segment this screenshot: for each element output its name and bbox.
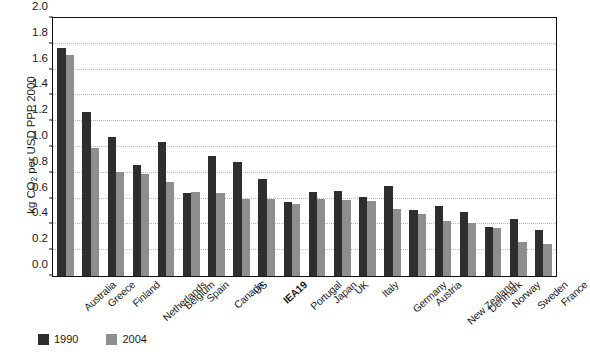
y-tick-label: 1.4 (32, 77, 48, 89)
legend: 19902004 (38, 333, 147, 345)
bar (158, 142, 166, 276)
bar (292, 204, 300, 276)
bar (535, 230, 543, 276)
bar (116, 172, 124, 276)
legend-swatch (106, 334, 117, 345)
bar (510, 219, 518, 276)
x-tick-label: Finland (131, 279, 163, 309)
bar (393, 209, 401, 276)
bar-group (309, 18, 326, 276)
plot-area: 0.00.20.40.60.81.01.21.41.61.82.0 (52, 17, 557, 277)
y-tick-label: 1.2 (32, 103, 48, 115)
legend-label: 1990 (54, 333, 78, 345)
bar-group (535, 18, 552, 276)
bar (191, 192, 199, 276)
bar (435, 206, 443, 276)
bar (284, 202, 292, 276)
bar-group (384, 18, 401, 276)
y-tick-label: 0.0 (32, 258, 48, 270)
legend-item: 2004 (106, 333, 146, 345)
bar-group (359, 18, 376, 276)
bar (183, 193, 191, 276)
bar (334, 191, 342, 276)
bar-group (258, 18, 275, 276)
bar (468, 223, 476, 276)
bar-group (183, 18, 200, 276)
bar-group (108, 18, 125, 276)
y-tick-label: 1.8 (32, 26, 48, 38)
y-tick-label: 0.2 (32, 232, 48, 244)
bar-group (158, 18, 175, 276)
legend-swatch (38, 334, 49, 345)
y-tick-label: 0.8 (32, 155, 48, 167)
bar-group (334, 18, 351, 276)
bar-group (133, 18, 150, 276)
bar (384, 186, 392, 276)
bar (409, 210, 417, 276)
bar (166, 182, 174, 276)
bar (493, 228, 501, 276)
bar-group (435, 18, 452, 276)
bar (485, 227, 493, 276)
x-tick-label: IEA19 (281, 279, 309, 306)
y-tick-label: 2.0 (32, 0, 48, 12)
bar-group (409, 18, 426, 276)
bar (141, 174, 149, 276)
bar-group (485, 18, 502, 276)
bar (317, 199, 325, 276)
bar (133, 165, 141, 276)
bar-group (284, 18, 301, 276)
bar-group (510, 18, 527, 276)
bar-group (460, 18, 477, 276)
bar (359, 197, 367, 276)
bar (82, 112, 90, 276)
bar (367, 201, 375, 276)
bar (242, 199, 250, 276)
x-axis-labels: AustraliaGreeceFinlandNetherlandsBelgium… (52, 279, 557, 339)
bar (518, 242, 526, 276)
bar (233, 162, 241, 276)
x-tick-label: UK (353, 279, 371, 297)
bar (342, 200, 350, 276)
bar (460, 212, 468, 277)
y-tick-label: 0.6 (32, 181, 48, 193)
bar (216, 193, 224, 276)
bar-group (57, 18, 74, 276)
bar (418, 214, 426, 276)
bar (108, 137, 116, 276)
y-tick-label: 0.4 (32, 206, 48, 218)
y-tick-label: 1.6 (32, 52, 48, 64)
x-tick-label: Italy (379, 279, 400, 299)
bar-group (82, 18, 99, 276)
bars-layer (53, 18, 556, 276)
bar (309, 192, 317, 276)
bar (66, 55, 74, 276)
bar (57, 48, 65, 276)
bar (91, 148, 99, 276)
bar (267, 199, 275, 276)
bar (258, 179, 266, 276)
bar (208, 156, 216, 276)
bar-group (233, 18, 250, 276)
legend-label: 2004 (122, 333, 146, 345)
bar (443, 221, 451, 276)
bar-group (208, 18, 225, 276)
bar (543, 244, 551, 276)
legend-item: 1990 (38, 333, 78, 345)
y-tick-label: 1.0 (32, 129, 48, 141)
